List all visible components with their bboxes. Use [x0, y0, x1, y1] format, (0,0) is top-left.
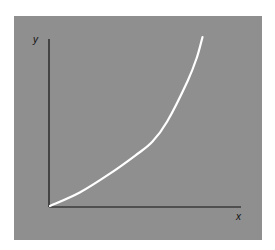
- y-axis-label: y: [33, 34, 38, 45]
- x-axis-label: x: [236, 211, 241, 222]
- line-chart: [0, 0, 275, 250]
- data-curve: [50, 37, 203, 206]
